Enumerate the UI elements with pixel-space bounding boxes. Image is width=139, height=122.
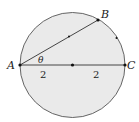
label-segment-left: 2 bbox=[40, 69, 46, 80]
point-b bbox=[96, 18, 99, 21]
label-c: C bbox=[127, 59, 136, 72]
midpoint-ab bbox=[68, 36, 70, 38]
point-a bbox=[18, 63, 21, 66]
label-theta: θ bbox=[38, 55, 44, 65]
center-point bbox=[71, 63, 74, 66]
label-b: B bbox=[100, 8, 109, 21]
circle-diagram: A B C θ 2 2 bbox=[0, 0, 139, 122]
label-a: A bbox=[6, 59, 15, 72]
arc-tick bbox=[116, 37, 118, 39]
label-segment-right: 2 bbox=[93, 69, 99, 80]
